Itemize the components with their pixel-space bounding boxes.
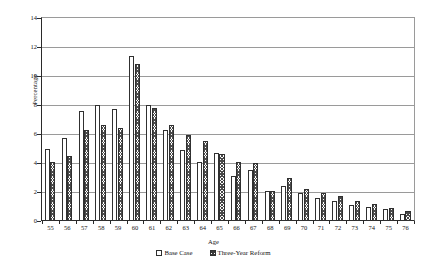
x-tick-mark (160, 221, 161, 224)
bar-group (93, 18, 110, 221)
legend-label-base-case: Base Case (164, 249, 192, 256)
x-tick-label: 62 (160, 225, 177, 232)
bar-base-case (366, 207, 371, 222)
x-tick-label: 60 (127, 225, 144, 232)
x-tick-mark (76, 221, 77, 224)
x-tick-mark (42, 221, 43, 224)
x-tick-mark (329, 221, 330, 224)
bar-base-case (231, 176, 236, 221)
bar-base-case (400, 214, 405, 221)
legend-item-base-case: Base Case (156, 249, 192, 256)
bar-group (346, 18, 363, 221)
x-tick-label: 67 (245, 225, 262, 232)
x-tick-mark (279, 221, 280, 224)
y-tick-label: 8 (11, 102, 37, 109)
y-tick-label: 4 (11, 160, 37, 167)
x-tick-label: 74 (363, 225, 380, 232)
x-tick-mark (346, 221, 347, 224)
bar-group (127, 18, 144, 221)
bars-layer (42, 18, 414, 221)
x-tick-mark (296, 221, 297, 224)
bar-three-year-reform (338, 196, 343, 221)
x-tick-label: 70 (296, 225, 313, 232)
y-tick-label: 0 (11, 218, 37, 225)
bar-group (245, 18, 262, 221)
x-tick-label: 56 (59, 225, 76, 232)
bar-group (228, 18, 245, 221)
bar-base-case (265, 191, 270, 221)
open-square-swatch-icon (156, 250, 162, 256)
x-tick-label: 57 (76, 225, 93, 232)
x-tick-mark (245, 221, 246, 224)
y-tick-mark (37, 221, 41, 222)
bar-group (110, 18, 127, 221)
bar-base-case (62, 138, 67, 221)
x-tick-label: 61 (143, 225, 160, 232)
x-tick-label: 75 (380, 225, 397, 232)
x-axis-ticks: 5556575859606162636465666768697071727374… (42, 221, 414, 239)
y-tick-label: 10 (11, 73, 37, 80)
bar-base-case (248, 170, 253, 221)
x-tick-label: 64 (194, 225, 211, 232)
x-tick-mark (397, 221, 398, 224)
y-axis-title: Percentage (31, 60, 38, 120)
x-axis-title: Age (0, 238, 427, 245)
x-tick-label: 66 (228, 225, 245, 232)
bar-base-case (332, 201, 337, 221)
bar-group (211, 18, 228, 221)
bar-base-case (197, 162, 202, 221)
y-tick-label: 12 (11, 44, 37, 51)
x-tick-mark (194, 221, 195, 224)
x-tick-label: 59 (110, 225, 127, 232)
x-tick-mark (414, 221, 415, 224)
x-tick-mark (177, 221, 178, 224)
bar-base-case (281, 186, 286, 221)
x-tick-mark (262, 221, 263, 224)
bar-three-year-reform (219, 154, 224, 221)
bar-three-year-reform (67, 156, 72, 221)
x-tick-mark (228, 221, 229, 224)
x-tick-label: 71 (313, 225, 330, 232)
x-tick-mark (380, 221, 381, 224)
bar-group (59, 18, 76, 221)
bar-base-case (349, 205, 354, 221)
bar-three-year-reform (304, 189, 309, 221)
x-tick-mark (59, 221, 60, 224)
bar-group (42, 18, 59, 221)
legend-label-three-year-reform: Three-Year Reform (218, 249, 271, 256)
x-tick-label: 63 (177, 225, 194, 232)
bar-three-year-reform (253, 163, 258, 221)
x-tick-label: 76 (397, 225, 414, 232)
legend-item-three-year-reform: Three-Year Reform (210, 249, 271, 256)
x-tick-label: 73 (346, 225, 363, 232)
bar-three-year-reform (50, 162, 55, 221)
bar-group (262, 18, 279, 221)
bar-three-year-reform (405, 211, 410, 221)
bar-group (329, 18, 346, 221)
bar-three-year-reform (186, 135, 191, 221)
bar-three-year-reform (321, 193, 326, 221)
y-tick-label: 14 (11, 15, 37, 22)
bar-three-year-reform (169, 125, 174, 221)
bar-three-year-reform (372, 204, 377, 221)
x-tick-label: 72 (329, 225, 346, 232)
bar-group (296, 18, 313, 221)
x-tick-label: 68 (262, 225, 279, 232)
bar-three-year-reform (355, 201, 360, 221)
hatched-square-swatch-icon (210, 250, 216, 256)
bar-base-case (112, 109, 117, 221)
bar-chart-figure: Percentage 02468101214 55565758596061626… (0, 0, 427, 268)
bar-three-year-reform (287, 178, 292, 222)
bar-group (177, 18, 194, 221)
x-tick-mark (363, 221, 364, 224)
bar-group (313, 18, 330, 221)
y-tick-label: 6 (11, 131, 37, 138)
bar-base-case (298, 193, 303, 221)
bar-base-case (45, 149, 50, 222)
bar-three-year-reform (118, 128, 123, 221)
bar-three-year-reform (152, 108, 157, 221)
x-tick-label: 65 (211, 225, 228, 232)
bar-group (279, 18, 296, 221)
bar-group (194, 18, 211, 221)
x-tick-mark (143, 221, 144, 224)
